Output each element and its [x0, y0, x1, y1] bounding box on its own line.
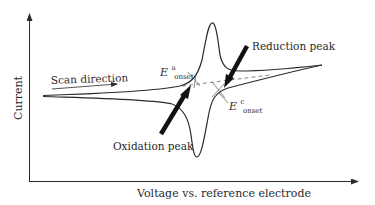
x-axis-label: Voltage vs. reference electrode: [136, 187, 311, 200]
reduction-peak-arrow-shaft: [230, 46, 247, 77]
anodic-onset-superscript: a: [172, 64, 176, 72]
anodic-onset-symbol: E: [159, 66, 168, 79]
cathodic-onset-leader: [219, 93, 228, 103]
cathodic-onset-subscript: onset: [243, 107, 262, 115]
reduction-peak-label: Reduction peak: [252, 40, 336, 52]
cyclic-voltammogram-diagram: Current Voltage vs. reference electrode …: [0, 0, 375, 205]
reduction-peak-pointer: [224, 46, 247, 88]
svg-text:E c onset: E c onset: [228, 94, 262, 115]
svg-text:E a onset: E a onset: [159, 60, 194, 81]
oxidation-peak-pointer: [161, 85, 191, 134]
cathodic-onset-label: E c onset: [228, 94, 262, 115]
cathodic-onset-superscript: c: [241, 98, 245, 106]
anodic-onset-label: E a onset: [159, 60, 194, 81]
anodic-onset-subscript: onset: [174, 73, 193, 81]
y-axis-label: Current: [12, 75, 25, 120]
oxidation-peak-arrow-shaft: [161, 96, 184, 134]
cathodic-onset-symbol: E: [228, 100, 237, 113]
oxidation-peak-label: Oxidation peak: [113, 140, 194, 152]
